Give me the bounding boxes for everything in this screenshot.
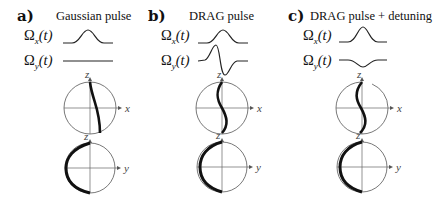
- trajectory: [90, 82, 100, 133]
- panel-a: a) Gaussian pulse Ωx(t) Ωy(t) x z y z: [0, 0, 147, 204]
- omega-x-pulse: [198, 30, 248, 43]
- svg-text:z: z: [356, 68, 362, 80]
- omega-x-pulse: [63, 30, 113, 43]
- svg-text:y: y: [123, 162, 129, 174]
- bloch-sphere-yz: y z: [197, 129, 261, 192]
- bloch-sphere-xz: x z: [336, 68, 402, 134]
- panel-c-graphics: x z y z: [290, 0, 442, 204]
- svg-text:x: x: [396, 102, 402, 114]
- svg-text:z: z: [216, 68, 222, 80]
- trajectory: [357, 82, 366, 133]
- svg-text:z: z: [84, 68, 90, 80]
- panel-a-graphics: x z y z: [0, 0, 147, 204]
- svg-text:x: x: [256, 102, 262, 114]
- omega-x-pulse: [339, 27, 387, 42]
- panel-b: b) DRAG pulse Ωx(t) Ωy(t) x z y z: [145, 0, 292, 204]
- bloch-sphere-yz: y z: [65, 130, 129, 193]
- bloch-sphere-xz: x z: [196, 68, 262, 134]
- svg-text:y: y: [255, 161, 261, 173]
- panel-c: c) DRAG pulse + detuning Ωx(t) Ωy(t) x z…: [290, 0, 437, 204]
- omega-y-pulse: [198, 45, 248, 75]
- svg-text:y: y: [395, 161, 401, 173]
- svg-text:x: x: [124, 102, 130, 114]
- svg-text:z: z: [355, 129, 361, 141]
- bloch-sphere-xz: x z: [64, 68, 130, 134]
- panel-b-graphics: x z y z: [145, 0, 292, 204]
- bloch-sphere-yz: y z: [337, 129, 401, 192]
- svg-text:z: z: [215, 129, 221, 141]
- svg-text:z: z: [83, 130, 89, 142]
- omega-y-pulse: [339, 60, 387, 67]
